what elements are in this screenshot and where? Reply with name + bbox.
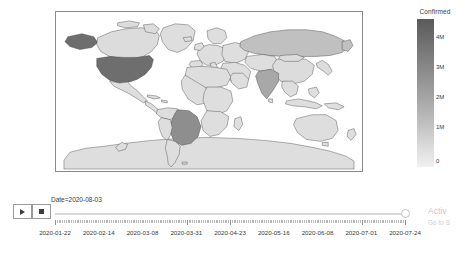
slider-track[interactable]	[55, 213, 405, 215]
animation-controls: Date=2020-08-03 2020-01-222020-02-142020…	[0, 196, 465, 246]
cuba	[147, 95, 160, 99]
date-slider[interactable]	[55, 209, 405, 223]
slider-tick-label: 2020-07-01	[345, 229, 377, 236]
watermark-line-2: Go to S	[428, 217, 465, 228]
madagascar	[234, 117, 243, 131]
world-map-svg	[56, 12, 362, 171]
country-mexico[interactable]	[110, 81, 148, 103]
indonesia	[286, 99, 323, 109]
play-icon	[20, 209, 25, 215]
country-alaska[interactable]	[65, 34, 98, 50]
slider-tick-label: 2020-05-16	[258, 229, 290, 236]
choropleth-figure: Confirmed 4M 3M 2M 1M 0 Date=2020-08-03 …	[0, 0, 465, 253]
new-zealand	[347, 129, 356, 141]
slider-tick-label: 2020-01-22	[39, 229, 71, 236]
country-russia[interactable]	[240, 30, 348, 57]
philippines	[308, 87, 319, 98]
korea-japan	[316, 60, 332, 75]
slider-tick-label: 2020-06-08	[302, 229, 334, 236]
slider-tick-label: 2020-07-24	[389, 229, 421, 236]
colorbar: Confirmed 4M 3M 2M 1M 0	[412, 8, 464, 178]
country-peru-bolivia[interactable]	[158, 118, 172, 141]
windows-activation-watermark: Activ Go to S	[428, 206, 465, 228]
colorbar-tick-3m: 3M	[436, 64, 444, 70]
colorbar-tick-1m: 1M	[436, 124, 444, 130]
country-australia[interactable]	[293, 115, 338, 142]
slider-tick-labels: 2020-01-222020-02-142020-03-082020-03-31…	[0, 229, 465, 241]
watermark-line-1: Activ	[428, 206, 465, 217]
slider-tick-label: 2020-04-23	[214, 229, 246, 236]
colorbar-tick-2m: 2M	[436, 94, 444, 100]
region-southern-africa[interactable]	[201, 111, 229, 137]
region-southeast-asia[interactable]	[282, 81, 299, 97]
slider-tick-label: 2020-02-14	[83, 229, 115, 236]
tasmania	[322, 142, 328, 146]
sri-lanka	[269, 99, 273, 103]
kamchatka	[342, 40, 353, 52]
country-india[interactable]	[256, 69, 279, 99]
country-antarctica[interactable]	[64, 137, 354, 169]
slider-tick[interactable]	[405, 220, 406, 225]
pause-icon	[39, 209, 44, 214]
slider-tick-label: 2020-03-08	[127, 229, 159, 236]
play-button[interactable]	[13, 204, 32, 219]
slider-handle[interactable]	[401, 209, 410, 218]
slider-tick-label: 2020-03-31	[170, 229, 202, 236]
slider-current-value-label: Date=2020-08-03	[51, 196, 102, 203]
colorbar-title: Confirmed	[412, 8, 458, 15]
slider-tick-marks	[55, 220, 405, 225]
pause-button[interactable]	[32, 204, 51, 219]
region-central-east-africa[interactable]	[203, 87, 233, 115]
colorbar-tick-0: 0	[436, 158, 439, 164]
colorbar-gradient	[417, 19, 434, 167]
scandinavia	[207, 28, 227, 44]
world-map-panel[interactable]	[55, 11, 363, 172]
canada-arctic-islands	[118, 21, 140, 28]
colorbar-tick-4m: 4M	[436, 34, 444, 40]
new-guinea	[324, 103, 344, 110]
falklands	[182, 162, 187, 164]
country-united-states[interactable]	[97, 55, 154, 83]
hispaniola	[161, 100, 167, 103]
